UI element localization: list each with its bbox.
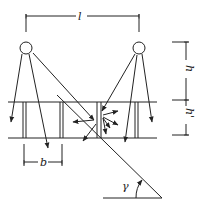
scattered-rays xyxy=(73,111,118,141)
light-source-right xyxy=(133,42,145,54)
dimension-l xyxy=(26,14,139,32)
angle-arc xyxy=(136,180,142,198)
diagram-svg: l b γ h h' xyxy=(0,0,200,210)
label-h-prime: h' xyxy=(183,108,196,118)
label-l: l xyxy=(78,10,82,23)
light-source-left xyxy=(20,42,32,54)
inclined-line xyxy=(57,95,162,198)
rays-right xyxy=(102,54,152,142)
label-gamma: γ xyxy=(122,180,129,193)
label-b: b xyxy=(40,156,47,169)
label-h: h xyxy=(183,65,196,72)
dimension-h xyxy=(172,42,189,135)
diagram: l b γ h h' xyxy=(0,0,200,210)
